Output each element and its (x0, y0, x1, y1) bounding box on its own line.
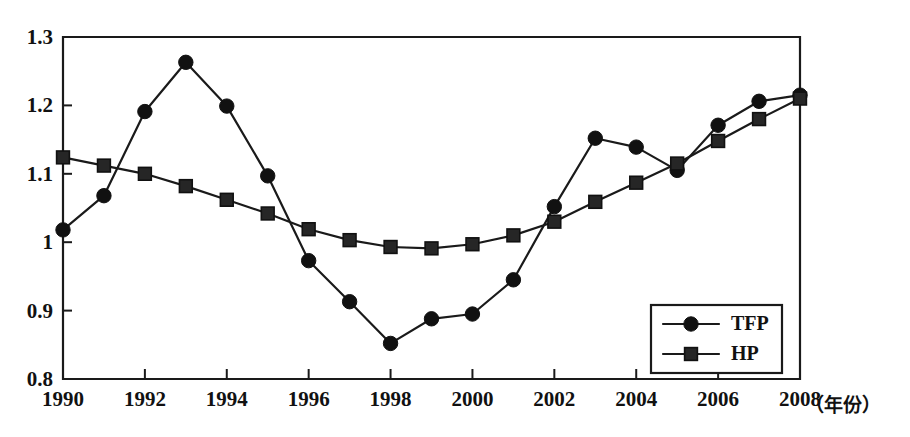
line-chart-canvas: 0.80.911.11.21.3 19901992199419961998200… (0, 0, 910, 437)
data-point-marker (629, 140, 643, 154)
data-point-marker (465, 307, 479, 321)
data-point-marker (425, 242, 438, 255)
chart-figure: 0.80.911.11.21.3 19901992199419961998200… (0, 0, 910, 437)
data-point-marker (794, 92, 807, 105)
x-tick-label: 1990 (42, 387, 84, 411)
data-point-marker (588, 131, 602, 145)
data-point-marker (466, 238, 479, 251)
y-tick-label: 1.3 (27, 25, 53, 49)
x-tick-label: 2000 (451, 387, 493, 411)
legend-marker-square-icon (685, 348, 698, 361)
y-tick-label: 1.1 (27, 162, 53, 186)
data-point-marker (261, 169, 275, 183)
data-point-marker (752, 94, 766, 108)
data-point-marker (753, 113, 766, 126)
data-point-marker (56, 223, 70, 237)
legend-label: HP (731, 342, 759, 364)
data-point-marker (301, 253, 315, 267)
x-tick-label: 1992 (124, 387, 166, 411)
data-point-marker (383, 336, 397, 350)
x-tick-label: 1998 (370, 387, 412, 411)
data-point-marker (507, 229, 520, 242)
x-axis-caption: （年份） (805, 394, 881, 416)
data-point-marker (711, 118, 725, 132)
data-point-marker (302, 223, 315, 236)
data-point-marker (220, 99, 234, 113)
data-point-marker (179, 55, 193, 69)
x-tick-label: 1996 (288, 387, 330, 411)
data-point-marker (220, 193, 233, 206)
data-point-marker (589, 195, 602, 208)
x-tick-label: 2006 (697, 387, 739, 411)
legend-label: TFP (731, 312, 769, 334)
data-point-marker (506, 273, 520, 287)
data-point-marker (138, 167, 151, 180)
data-point-marker (548, 215, 561, 228)
data-point-marker (342, 295, 356, 309)
data-point-marker (261, 207, 274, 220)
y-tick-label: 1 (43, 230, 54, 254)
data-point-marker (138, 104, 152, 118)
data-point-marker (424, 312, 438, 326)
data-point-marker (671, 157, 684, 170)
chart-legend: TFPHP (651, 305, 782, 373)
data-point-marker (179, 180, 192, 193)
legend-marker-circle-icon (684, 317, 698, 331)
data-point-marker (547, 199, 561, 213)
data-point-marker (97, 188, 111, 202)
x-tick-label: 2004 (615, 387, 658, 411)
data-point-marker (712, 135, 725, 148)
data-point-marker (384, 241, 397, 254)
x-tick-label: 2002 (533, 387, 575, 411)
y-tick-label: 0.9 (27, 299, 53, 323)
x-tick-label: 1994 (206, 387, 249, 411)
data-point-marker (98, 159, 111, 172)
data-point-marker (630, 176, 643, 189)
data-point-marker (57, 151, 70, 164)
data-point-marker (343, 234, 356, 247)
y-tick-label: 1.2 (27, 93, 53, 117)
